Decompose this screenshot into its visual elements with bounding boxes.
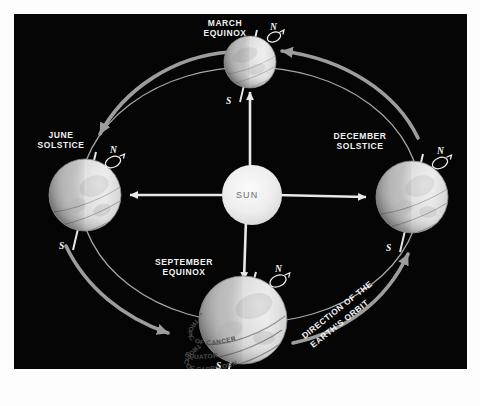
arrow-march-to-june [100,52,230,134]
label-march-equinox: MARCH EQUINOX [188,18,262,38]
pole-label-north-september: N [275,264,282,274]
ray-to-december [276,195,366,197]
diagram-canvas: TROPIC OF CANCER EQUATOR TROPIC OF CAPRI… [0,0,480,406]
label-september-equinox: SEPTEMBER EQUINOX [140,257,228,277]
pole-label-south-september: S [216,361,221,369]
label-sun: SUN [236,190,258,200]
rotation-icon-march [266,30,284,44]
label-december-solstice: DECEMBER SOLSTICE [320,131,400,151]
pole-label-south-march: S [226,96,231,106]
pole-label-north-march: N [270,22,277,32]
arrow-december-to-march [282,51,418,138]
globe-june-solstice [20,152,127,253]
label-june-solstice: JUNE SOLSTICE [24,130,98,150]
pole-label-north-june: N [110,145,117,155]
ray-to-september [244,219,246,280]
pole-label-north-december: N [437,146,444,156]
diagram-panel: TROPIC OF CANCER EQUATOR TROPIC OF CAPRI… [14,14,467,369]
pole-label-south-december: S [386,243,391,253]
pole-label-south-june: S [59,241,64,251]
